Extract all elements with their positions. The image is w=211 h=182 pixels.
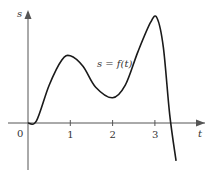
- x-tick-label-3: 3: [152, 129, 158, 140]
- x-axis-label: t: [198, 128, 203, 139]
- y-axis-arrow-icon: [25, 10, 32, 19]
- curve-label: s = f(t): [97, 58, 132, 69]
- x-axis-arrow-icon: [196, 120, 205, 127]
- x-tick-label-2: 2: [110, 129, 116, 140]
- x-tick-label-1: 1: [67, 129, 73, 140]
- y-axis-label: s: [17, 8, 22, 19]
- origin-label: 0: [17, 128, 23, 139]
- graph: 123 s t 0 s = f(t): [0, 0, 211, 182]
